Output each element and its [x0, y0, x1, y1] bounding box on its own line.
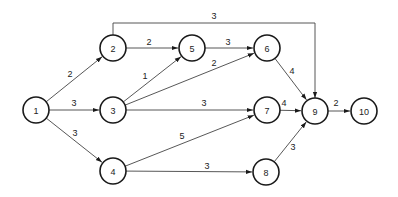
edge-label-1-2: 2	[67, 69, 72, 79]
edge-label-2-9: 3	[211, 11, 216, 21]
node-label: 4	[110, 167, 115, 177]
node-label: 5	[189, 44, 194, 54]
edge-label-2-5: 2	[146, 37, 151, 47]
edge-label-1-4: 3	[72, 128, 77, 138]
node-8: 8	[253, 159, 279, 185]
edge-label-4-8: 3	[204, 161, 209, 171]
node-label: 6	[264, 44, 269, 54]
edge-3-to-5	[123, 57, 181, 102]
node-10: 10	[351, 98, 377, 124]
edge-4-to-8	[126, 171, 252, 172]
node-1: 1	[23, 97, 49, 123]
node-label: 10	[359, 107, 369, 117]
edge-6-to-9	[275, 58, 307, 100]
edge-labels-layer: 233231235334432	[67, 11, 338, 171]
edge-label-7-9: 4	[281, 98, 286, 108]
edge-label-3-5: 1	[142, 71, 147, 81]
edge-1-to-4	[46, 118, 102, 162]
node-label: 9	[312, 107, 317, 117]
edge-label-3-6: 2	[211, 58, 216, 68]
node-6: 6	[254, 35, 280, 61]
node-label: 1	[33, 106, 38, 116]
edge-label-6-9: 4	[289, 66, 294, 76]
edge-label-8-9: 3	[290, 142, 295, 152]
diagram-svg: 233231235334432 12345678910	[0, 0, 398, 197]
edge-label-3-7: 3	[201, 98, 206, 108]
node-label: 3	[110, 106, 115, 116]
edge-1-to-2	[46, 57, 102, 102]
node-5: 5	[179, 35, 205, 61]
edge-label-5-6: 3	[225, 37, 230, 47]
edge-label-9-10: 2	[333, 98, 338, 108]
node-3: 3	[100, 97, 126, 123]
node-9: 9	[302, 98, 328, 124]
network-diagram: 233231235334432 12345678910	[0, 0, 398, 197]
node-4: 4	[100, 158, 126, 184]
edge-label-4-7: 5	[179, 131, 184, 141]
edge-4-to-7	[125, 115, 254, 166]
edge-label-1-3: 3	[71, 98, 76, 108]
node-label: 2	[110, 44, 115, 54]
node-label: 8	[263, 168, 268, 178]
node-7: 7	[254, 97, 280, 123]
node-2: 2	[100, 35, 126, 61]
node-label: 7	[264, 106, 269, 116]
